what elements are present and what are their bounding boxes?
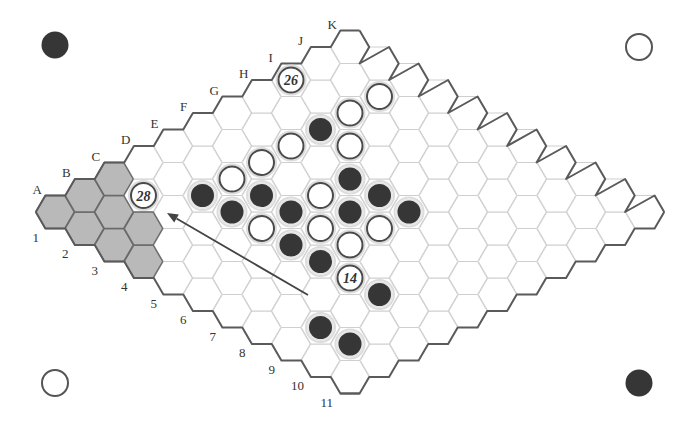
stone-F7[interactable] <box>365 214 394 243</box>
black-stone <box>367 282 392 307</box>
black-stone <box>220 200 245 225</box>
move-number: 28 <box>136 189 151 204</box>
corner-stone-top-left <box>42 32 69 59</box>
row-label-9: 9 <box>268 362 275 377</box>
white-stone <box>308 183 333 208</box>
corner-stone-top-right <box>626 34 652 60</box>
row-label-7: 7 <box>209 329 216 344</box>
row-label-6: 6 <box>180 312 187 327</box>
black-stone <box>190 183 215 208</box>
white-stone <box>220 167 245 192</box>
column-label-K: K <box>327 17 337 32</box>
black-stone <box>338 167 363 192</box>
white-stone <box>338 101 363 126</box>
stone-D5[interactable] <box>247 214 276 243</box>
stone-I1[interactable]: 26 <box>277 66 306 95</box>
move-number: 26 <box>283 73 298 88</box>
stone-D9[interactable] <box>365 280 394 309</box>
black-stone <box>308 249 333 274</box>
column-label-G: G <box>209 83 218 98</box>
row-label-2: 2 <box>62 246 69 261</box>
stone-B9[interactable] <box>306 313 335 342</box>
stone-F5[interactable] <box>306 181 335 210</box>
row-label-5: 5 <box>150 296 157 311</box>
stone-H3[interactable] <box>306 115 335 144</box>
white-stone <box>338 233 363 258</box>
column-label-E: E <box>150 116 158 131</box>
stone-G5[interactable] <box>336 165 365 194</box>
stone-D6[interactable] <box>277 231 306 260</box>
column-label-D: D <box>121 132 130 147</box>
row-label-3: 3 <box>91 263 98 278</box>
white-stone <box>249 150 274 175</box>
move-number: 14 <box>343 271 357 286</box>
stone-F3[interactable] <box>247 148 276 177</box>
column-label-C: C <box>91 149 100 164</box>
hex-board: ABCDEFGHIJK1234567891011 261428 <box>0 0 686 424</box>
black-stone <box>279 200 304 225</box>
stone-E6[interactable] <box>306 214 335 243</box>
stone-E3[interactable] <box>218 165 247 194</box>
row-label-8: 8 <box>239 345 246 360</box>
stone-F6[interactable] <box>336 198 365 227</box>
stone-D3[interactable] <box>188 181 217 210</box>
stone-G7[interactable] <box>395 198 424 227</box>
white-stone <box>279 134 304 159</box>
black-stone <box>308 117 333 142</box>
white-stone <box>308 216 333 241</box>
stone-E5[interactable] <box>277 198 306 227</box>
stone-E7[interactable] <box>336 231 365 260</box>
row-label-11: 11 <box>320 395 333 410</box>
stone-D7[interactable] <box>306 247 335 276</box>
white-stone <box>338 134 363 159</box>
stone-E4[interactable] <box>247 181 276 210</box>
column-label-J: J <box>298 33 303 48</box>
row-label-10: 10 <box>291 378 304 393</box>
stone-J3[interactable] <box>365 82 394 111</box>
stone-D8[interactable]: 14 <box>336 264 365 293</box>
stone-G3[interactable] <box>277 132 306 161</box>
corner-stone-bottom-right <box>626 370 653 397</box>
black-stone <box>338 332 363 357</box>
column-label-F: F <box>180 99 187 114</box>
corner-stone-bottom-left <box>42 370 68 396</box>
white-stone <box>367 84 392 109</box>
black-stone <box>279 233 304 258</box>
white-stone <box>249 216 274 241</box>
stone-B10[interactable] <box>336 330 365 359</box>
column-label-B: B <box>62 165 71 180</box>
black-stone <box>249 183 274 208</box>
black-stone <box>308 315 333 340</box>
black-stone <box>367 183 392 208</box>
column-label-H: H <box>239 66 248 81</box>
stone-G6[interactable] <box>365 181 394 210</box>
stone-I3[interactable] <box>336 99 365 128</box>
row-label-4: 4 <box>121 279 128 294</box>
black-stone <box>397 200 422 225</box>
black-stone <box>338 200 363 225</box>
stone-C2[interactable]: 28 <box>129 181 158 210</box>
column-label-I: I <box>268 50 272 65</box>
white-stone <box>367 216 392 241</box>
column-label-A: A <box>32 182 42 197</box>
row-label-1: 1 <box>32 230 39 245</box>
stone-H4[interactable] <box>336 132 365 161</box>
stone-D4[interactable] <box>218 198 247 227</box>
